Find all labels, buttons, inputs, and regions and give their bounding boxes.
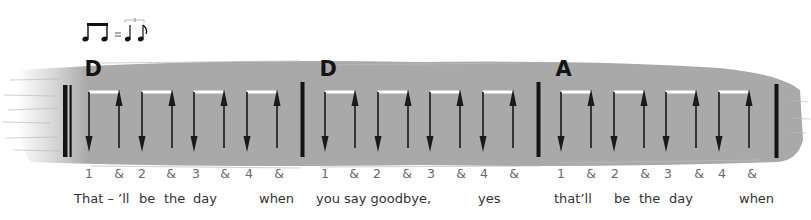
- up-strum-arrow-icon: [405, 89, 412, 148]
- beam: [194, 91, 224, 94]
- down-strum-arrow-icon: [558, 92, 565, 152]
- beam: [614, 91, 644, 94]
- beat-count: 2: [138, 168, 146, 181]
- lyric-word: you say goodbye,: [316, 192, 431, 205]
- beat-count: 2: [611, 168, 619, 181]
- up-strum-arrow-icon: [169, 89, 176, 148]
- strum-pattern-staff: [0, 0, 811, 220]
- barline: [301, 82, 305, 157]
- beam: [719, 91, 749, 94]
- beat-count: 2: [373, 168, 381, 181]
- beat-count: 4: [480, 168, 488, 181]
- lyric-word: be: [139, 192, 155, 205]
- lyric-word: yes: [478, 192, 500, 205]
- strum-measure-1: [86, 89, 281, 152]
- down-strum-arrow-icon: [86, 92, 93, 152]
- beat-count: &: [220, 168, 230, 181]
- beat-count: 1: [321, 168, 329, 181]
- down-strum-arrow-icon: [375, 92, 382, 152]
- lyric-word: that’ll: [554, 192, 592, 205]
- down-strum-arrow-icon: [244, 92, 251, 152]
- opening-double-barline: [63, 85, 72, 157]
- beat-count: &: [166, 168, 176, 181]
- lyric-word: when: [739, 192, 774, 205]
- beat-count: &: [349, 168, 359, 181]
- lyric-word: be: [614, 192, 630, 205]
- beat-count: &: [694, 168, 704, 181]
- beam: [89, 91, 119, 94]
- chord-name: D: [84, 58, 101, 80]
- chord-name: D: [319, 58, 336, 80]
- up-strum-arrow-icon: [693, 89, 700, 148]
- beat-count: 1: [557, 168, 565, 181]
- up-strum-arrow-icon: [641, 89, 648, 148]
- strum-measure-2: [322, 89, 517, 152]
- down-strum-arrow-icon: [611, 92, 618, 152]
- up-strum-arrow-icon: [274, 89, 281, 148]
- beat-count: &: [402, 168, 412, 181]
- beam: [325, 91, 355, 94]
- beam: [666, 91, 696, 94]
- beam: [142, 91, 172, 94]
- beam: [378, 91, 408, 94]
- beat-count: &: [747, 168, 757, 181]
- up-strum-arrow-icon: [457, 89, 464, 148]
- up-strum-arrow-icon: [221, 89, 228, 148]
- barline: [537, 82, 541, 157]
- beat-count: 4: [245, 168, 253, 181]
- lyric-word: when: [259, 192, 294, 205]
- up-strum-arrow-icon: [510, 89, 517, 148]
- beam: [483, 91, 513, 94]
- down-strum-arrow-icon: [480, 92, 487, 152]
- lyric-word: the: [164, 192, 185, 205]
- down-strum-arrow-icon: [322, 92, 329, 152]
- beat-count: &: [456, 168, 466, 181]
- down-strum-arrow-icon: [716, 92, 723, 152]
- down-strum-arrow-icon: [663, 92, 670, 152]
- beat-count: 4: [718, 168, 726, 181]
- up-strum-arrow-icon: [116, 89, 123, 148]
- final-barline: [775, 84, 779, 158]
- beat-count: &: [586, 168, 596, 181]
- beat-count: 3: [192, 168, 200, 181]
- up-strum-arrow-icon: [352, 89, 359, 148]
- beat-count: &: [640, 168, 650, 181]
- chord-name: A: [555, 58, 571, 80]
- beam: [561, 91, 591, 94]
- strum-measure-3: [558, 89, 753, 152]
- beat-count: 1: [85, 168, 93, 181]
- down-strum-arrow-icon: [191, 92, 198, 152]
- up-strum-arrow-icon: [746, 89, 753, 148]
- lyric-word: day: [669, 192, 693, 205]
- down-strum-arrow-icon: [139, 92, 146, 152]
- beam: [247, 91, 277, 94]
- lyric-word: the: [639, 192, 660, 205]
- beat-count: &: [274, 168, 284, 181]
- up-strum-arrow-icon: [588, 89, 595, 148]
- lyric-word: That – ’ll: [74, 192, 129, 205]
- beat-count: 3: [427, 168, 435, 181]
- beat-count: &: [114, 168, 124, 181]
- lyric-word: day: [193, 192, 217, 205]
- down-strum-arrow-icon: [427, 92, 434, 152]
- beat-count: &: [509, 168, 519, 181]
- beat-count: 3: [664, 168, 672, 181]
- beam: [430, 91, 460, 94]
